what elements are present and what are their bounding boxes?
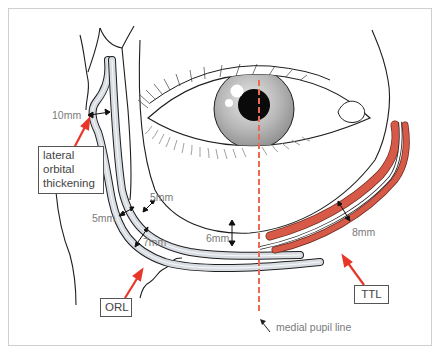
orl-callout: ORL	[100, 298, 132, 317]
lateral-orbital-thickening-callout: lateral orbital thickening	[38, 146, 104, 194]
measurement-5mm-inner: 5mm	[150, 192, 173, 203]
measurement-8mm: 8mm	[352, 227, 375, 238]
ttl-callout: TTL	[354, 285, 389, 304]
measurement-6mm: 6mm	[206, 233, 229, 244]
highlight-large	[231, 85, 244, 98]
medial-pupil-line-label: medial pupil line	[276, 322, 351, 333]
measurement-10mm: 10mm	[52, 110, 81, 121]
measurement-5mm-outer: 5mm	[92, 213, 115, 224]
callout-line-2: orbital	[43, 162, 99, 176]
callout-line-3: thickening	[43, 176, 99, 190]
highlight-small	[225, 99, 233, 107]
pupil-line-pointer-head	[260, 319, 266, 325]
measurement-7mm: 7mm	[143, 237, 166, 248]
callout-line-1: lateral	[43, 148, 99, 162]
